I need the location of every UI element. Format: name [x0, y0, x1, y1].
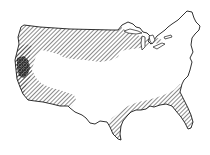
us-map	[0, 0, 210, 155]
lake-ontario	[164, 35, 172, 39]
lake-michigan	[141, 36, 145, 50]
lake-erie	[153, 43, 165, 49]
region-gulf-coast-florida	[108, 84, 194, 141]
